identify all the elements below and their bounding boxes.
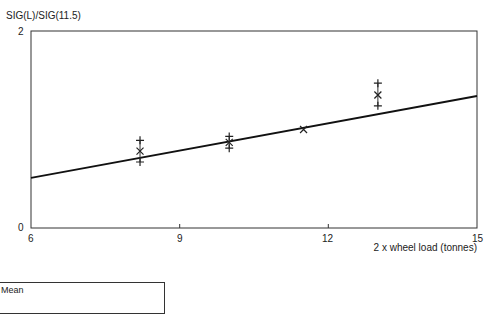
x-tick-12: 12 — [322, 233, 333, 244]
legend-item-mean: Mean — [1, 285, 24, 295]
plot-frame — [31, 31, 477, 228]
range-marker — [374, 79, 382, 87]
fit-line — [31, 96, 477, 178]
legend: Mean — [0, 282, 165, 314]
chart-series — [31, 79, 477, 178]
x-tick-6: 6 — [28, 233, 34, 244]
range-marker — [374, 102, 382, 110]
range-marker — [136, 136, 144, 144]
x-tick-9: 9 — [177, 233, 183, 244]
x-axis-label: 2 x wheel load (tonnes) — [374, 242, 477, 253]
